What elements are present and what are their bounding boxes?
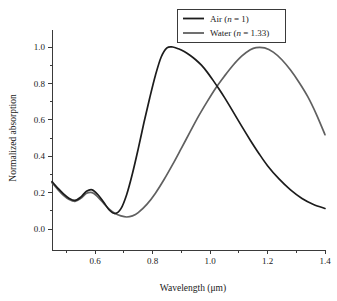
data-series (52, 47, 325, 217)
x-tick-label-1: 0.8 (147, 256, 159, 266)
tick-marks (48, 47, 325, 254)
y-axis-title: Normalized absorption (8, 94, 18, 182)
x-tick-label-2: 1.0 (204, 256, 216, 266)
y-tick-labels: 0.00.20.40.60.81.0 (34, 42, 46, 234)
chart-figure: 0.60.81.01.21.4 0.00.20.40.60.81.0 Air (… (0, 0, 337, 301)
y-tick-label-0: 0.0 (34, 224, 46, 234)
y-tick-label-3: 0.6 (34, 115, 46, 125)
chart-legend: Air (n = 1)Water (n = 1.33) (177, 9, 285, 42)
legend-label-air: Air (n = 1) (210, 14, 249, 24)
x-tick-labels: 0.60.81.01.21.4 (89, 256, 331, 266)
y-tick-label-5: 1.0 (34, 42, 46, 52)
x-axis-title: Wavelength (μm) (160, 283, 226, 294)
series-line-air (52, 47, 325, 214)
legend-label-water: Water (n = 1.33) (210, 28, 269, 38)
series-line-water (52, 47, 325, 217)
y-tick-label-4: 0.8 (34, 79, 46, 89)
x-tick-label-4: 1.4 (319, 256, 331, 266)
line-chart: 0.60.81.01.21.4 0.00.20.40.60.81.0 Air (… (0, 0, 337, 301)
x-tick-label-3: 1.2 (262, 256, 273, 266)
y-tick-label-2: 0.4 (34, 151, 46, 161)
x-tick-label-0: 0.6 (89, 256, 101, 266)
y-tick-label-1: 0.2 (34, 188, 45, 198)
